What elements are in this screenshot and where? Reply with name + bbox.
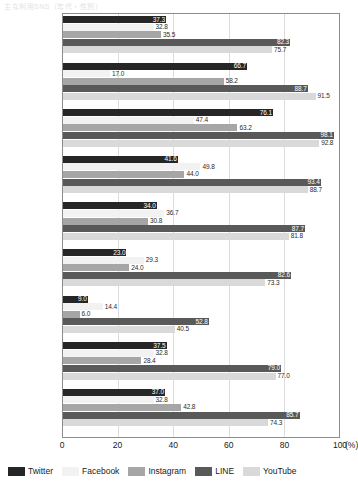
bar-row: 88.7 [63,85,339,92]
bar-value-label: 40.5 [177,326,189,333]
bar-facebook: 32.8 [63,24,154,31]
bar-value-label: 41.6 [165,156,177,163]
bar-facebook: 32.8 [63,350,154,357]
bar-line: 82.6 [63,272,291,279]
bar-instagram: 28.4 [63,357,141,364]
bar-row: 66.7 [63,63,339,70]
legend-swatch-line [195,467,212,476]
bar-group: 37.332.835.582.375.7 [63,16,339,63]
bar-row: 98.1 [63,132,339,139]
bar-value-label: 52.8 [195,319,207,326]
bar-value-label: 37.5 [153,342,165,349]
bar-row: 52.8 [63,318,339,325]
bar-twitter: 37.3 [63,16,166,23]
legend-item-line[interactable]: LINE [195,466,234,476]
bar-value-label: 32.8 [156,397,168,404]
bar-value-label: 79.0 [268,365,280,372]
bar-row: 47.4 [63,117,339,124]
legend-label: YouTube [263,466,296,476]
bar-group: 9.014.46.052.840.5 [63,296,339,343]
bar-youtube: 81.8 [63,233,289,240]
bar-row: 40.5 [63,326,339,333]
bar-twitter: 37.0 [63,389,165,396]
bar-row: 29.3 [63,257,339,264]
bar-row: 32.8 [63,350,339,357]
bar-value-label: 30.8 [150,218,162,225]
bar-youtube: 91.5 [63,93,316,100]
bar-value-label: 91.5 [318,93,330,100]
bar-value-label: 17.0 [112,70,124,77]
bar-row: 41.6 [63,156,339,163]
bar-row: 49.8 [63,163,339,170]
bar-line: 98.1 [63,132,334,139]
legend-swatch-twitter [8,467,25,476]
bar-youtube: 88.7 [63,186,308,193]
bar-row: 79.0 [63,365,339,372]
bar-twitter: 9.0 [63,296,88,303]
bar-row: 73.3 [63,279,339,286]
legend-item-instagram[interactable]: Instagram [128,466,186,476]
bar-value-label: 32.8 [156,24,168,31]
bar-value-label: 23.0 [113,249,125,256]
bar-row: 24.0 [63,264,339,271]
bar-facebook: 17.0 [63,70,110,77]
chart-legend: TwitterFacebookInstagramLINEYouTube [8,466,353,476]
x-tick-label: 20 [113,440,122,450]
x-tick-label: 60 [224,440,233,450]
bar-row: 88.7 [63,186,339,193]
bar-row: 32.8 [63,396,339,403]
bar-row: 63.2 [63,124,339,131]
bar-youtube: 74.3 [63,419,268,426]
bar-value-label: 42.8 [183,404,195,411]
x-axis-unit: (%) [345,440,358,450]
legend-item-facebook[interactable]: Facebook [62,466,119,476]
bar-value-label: 66.7 [234,63,246,70]
bar-value-label: 24.0 [131,264,143,271]
legend-label: Twitter [28,466,53,476]
bar-group: 37.032.842.885.774.3 [63,389,339,436]
bar-row: 37.3 [63,16,339,23]
bar-instagram: 30.8 [63,218,148,225]
bar-value-label: 34.0 [144,203,156,210]
legend-label: LINE [215,466,234,476]
bar-value-label: 77.0 [278,373,290,380]
bar-value-label: 88.7 [310,186,322,193]
legend-label: Facebook [82,466,119,476]
bar-value-label: 81.8 [291,233,303,240]
bar-value-label: 28.4 [143,358,155,365]
legend-swatch-instagram [128,467,145,476]
bar-value-label: 14.4 [105,303,117,310]
bar-facebook: 49.8 [63,163,200,170]
legend-item-youtube[interactable]: YouTube [243,466,296,476]
bar-value-label: 82.3 [277,39,289,46]
bar-instagram: 44.0 [63,171,184,178]
bar-twitter: 76.1 [63,109,273,116]
bar-value-label: 47.4 [196,117,208,124]
legend-label: Instagram [148,466,186,476]
bar-value-label: 88.7 [295,86,307,93]
bar-row: 28.4 [63,357,339,364]
bar-value-label: 82.6 [278,272,290,279]
bar-row: 91.5 [63,93,339,100]
bar-youtube: 92.8 [63,140,319,147]
bar-twitter: 23.0 [63,249,126,256]
bar-value-label: 36.7 [166,210,178,217]
bar-row: 77.0 [63,373,339,380]
bar-row: 93.4 [63,179,339,186]
bar-instagram: 63.2 [63,124,237,131]
bar-twitter: 66.7 [63,63,247,70]
legend-item-twitter[interactable]: Twitter [8,466,53,476]
bar-row: 23.0 [63,249,339,256]
bar-group: 76.147.463.298.192.8 [63,109,339,156]
bar-row: 74.3 [63,419,339,426]
x-tick-label: 40 [168,440,177,450]
bar-row: 32.8 [63,24,339,31]
x-tick-label: 80 [280,440,289,450]
bar-row: 85.7 [63,412,339,419]
bar-youtube: 77.0 [63,373,276,380]
bar-row: 37.5 [63,342,339,349]
bar-value-label: 98.1 [320,132,332,139]
bar-value-label: 6.0 [82,311,91,318]
bar-value-label: 87.7 [292,225,304,232]
legend-swatch-youtube [243,467,260,476]
